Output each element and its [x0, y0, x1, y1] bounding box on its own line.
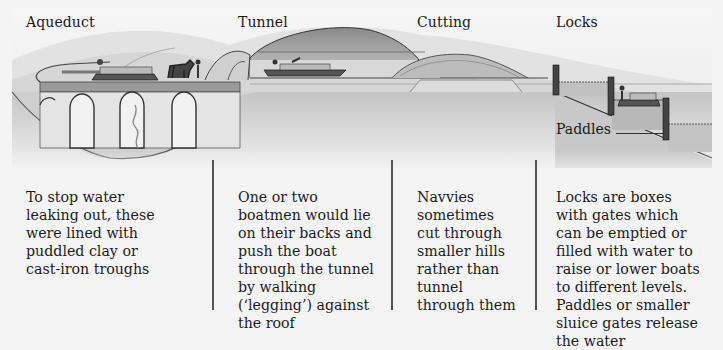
aqueduct-illustration — [12, 51, 250, 158]
lock-gate-upper — [553, 65, 559, 95]
text-line: can be emptied or — [556, 224, 700, 242]
text-line: Navvies — [417, 188, 516, 206]
text-line: rather than — [417, 260, 516, 278]
text-line: One or two — [238, 188, 374, 206]
column-tunnel-text: One or two boatmen would lie on their ba… — [238, 188, 374, 332]
column-aqueduct-text: To stop water leaking out, these were li… — [26, 188, 155, 278]
column-locks-text: Locks are boxes with gates which can be … — [556, 188, 700, 350]
text-line: boatmen would lie — [238, 206, 374, 224]
text-line: smaller hills — [417, 242, 516, 260]
column-divider-1 — [212, 160, 214, 310]
text-line: filled with water to — [556, 242, 700, 260]
text-line: (‘legging’) against — [238, 296, 374, 314]
text-line: tunnel — [417, 278, 516, 296]
text-line: the roof — [238, 314, 374, 332]
lock-gate-middle — [608, 77, 614, 115]
text-line: on their backs and — [238, 224, 374, 242]
text-line: raise or lower boats — [556, 260, 700, 278]
text-line: cast-iron troughs — [26, 260, 155, 278]
text-line: Locks are boxes — [556, 188, 700, 206]
callout-paddles: Paddles — [556, 121, 611, 137]
column-divider-2 — [391, 160, 393, 310]
text-line: sometimes — [417, 206, 516, 224]
text-line: through them — [417, 296, 516, 314]
text-line: to different levels. — [556, 278, 700, 296]
heading-tunnel: Tunnel — [238, 14, 288, 30]
heading-aqueduct: Aqueduct — [26, 14, 95, 30]
column-cutting-text: Navvies sometimes cut through smaller hi… — [417, 188, 516, 314]
text-line: leaking out, these — [26, 206, 155, 224]
text-line: with gates which — [556, 206, 700, 224]
text-line: sluice gates release — [556, 314, 700, 332]
text-line: by walking — [238, 278, 374, 296]
text-line: To stop water — [26, 188, 155, 206]
heading-cutting: Cutting — [417, 14, 471, 30]
callout-paddles-leader — [616, 133, 664, 134]
text-line: the water — [556, 332, 700, 350]
text-line: Paddles or smaller — [556, 296, 700, 314]
column-divider-3 — [535, 160, 537, 310]
text-line: push the boat — [238, 242, 374, 260]
text-line: were lined with — [26, 224, 155, 242]
text-line: puddled clay or — [26, 242, 155, 260]
text-line: cut through — [417, 224, 516, 242]
text-line: through the tunnel — [238, 260, 374, 278]
heading-locks: Locks — [556, 14, 598, 30]
